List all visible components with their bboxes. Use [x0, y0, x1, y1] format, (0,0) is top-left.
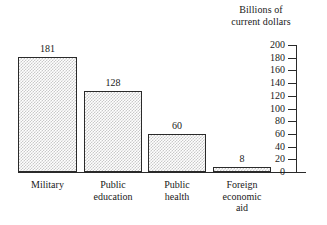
category-label-line: Military [10, 179, 85, 191]
y-tick-mark [288, 109, 296, 110]
bar-value-label: 181 [18, 44, 77, 54]
category-label-military: Military [10, 179, 85, 191]
y-tick-label: 140 [270, 78, 285, 88]
category-label-public-education: Public education [76, 179, 150, 202]
bar-foreign-economic-aid[interactable] [213, 167, 271, 172]
bar-public-health[interactable] [148, 134, 206, 172]
bar-chart: Billions of current dollars 200 180 160 … [0, 0, 327, 225]
y-tick-label: 40 [275, 142, 285, 152]
y-tick-mark [288, 134, 296, 135]
category-label-line: aid [205, 202, 279, 214]
category-label-line: education [76, 191, 150, 203]
bar-military[interactable] [18, 57, 77, 172]
category-label-line: Public [140, 179, 214, 191]
y-tick-mark [288, 70, 296, 71]
y-tick-mark [288, 147, 296, 148]
y-tick-mark [288, 45, 296, 46]
bar-value-label: 128 [84, 78, 142, 88]
category-label-line: economic [205, 191, 279, 203]
y-tick-label: 120 [270, 91, 285, 101]
category-label-line: health [140, 191, 214, 203]
y-tick-mark [288, 83, 296, 84]
category-label-public-health: Public health [140, 179, 214, 202]
plot-area: 200 180 160 140 120 100 80 60 40 20 0 18… [0, 0, 327, 225]
y-tick-label: 180 [270, 53, 285, 63]
y-tick-label: 20 [275, 154, 285, 164]
y-tick-label: 0 [280, 167, 285, 177]
bar-value-label: 8 [213, 154, 271, 164]
bar-value-label: 60 [148, 121, 206, 131]
y-tick-mark [288, 121, 296, 122]
y-axis-line [296, 45, 297, 173]
y-tick-mark [288, 96, 296, 97]
y-tick-label: 200 [270, 40, 285, 50]
bar-public-education[interactable] [84, 91, 142, 172]
y-tick-mark [288, 58, 296, 59]
category-label-foreign-economic-aid: Foreign economic aid [205, 179, 279, 214]
x-axis-line [18, 172, 306, 173]
y-tick-label: 60 [275, 129, 285, 139]
y-tick-mark [288, 159, 296, 160]
y-tick-label: 100 [270, 104, 285, 114]
y-tick-label: 160 [270, 65, 285, 75]
category-label-line: Foreign [205, 179, 279, 191]
y-tick-label: 80 [275, 116, 285, 126]
category-label-line: Public [76, 179, 150, 191]
